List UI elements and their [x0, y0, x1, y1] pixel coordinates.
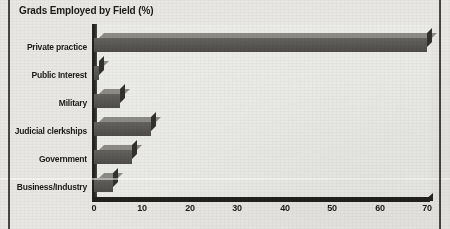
x-tick-label-40: 40 [280, 203, 290, 213]
bar-side-face [427, 28, 432, 47]
bar-front-face [94, 94, 120, 108]
x-tick-label-20: 20 [185, 203, 195, 213]
category-label-business-industry: Business/Industry [0, 182, 87, 192]
x-tick-label-0: 0 [92, 203, 97, 213]
bar-military [94, 89, 120, 103]
scan-band [0, 178, 450, 180]
x-axis [92, 197, 430, 202]
category-label-private-practice: Private practice [0, 42, 87, 52]
left-column-rule [8, 0, 10, 229]
right-column-rule [439, 0, 441, 229]
bar-front-face [94, 122, 151, 136]
bar-judicial-clerkships [94, 117, 151, 131]
x-tick-label-30: 30 [232, 203, 242, 213]
category-label-military: Military [0, 98, 87, 108]
category-label-judicial-clerkships: Judicial clerkships [0, 126, 87, 136]
bar-public-interest [94, 61, 99, 75]
category-label-public-interest: Public Interest [0, 70, 87, 80]
plot-area: Private practice Public Interest Militar… [0, 0, 450, 229]
chart-figure: Grads Employed by Field (%) Private prac… [0, 0, 450, 229]
x-tick-label-50: 50 [327, 203, 337, 213]
bar-government [94, 145, 132, 159]
bar-front-face [94, 178, 113, 192]
bar-business-industry [94, 173, 113, 187]
x-tick-label-10: 10 [137, 203, 147, 213]
x-tick-label-60: 60 [375, 203, 385, 213]
bar-front-face [94, 38, 427, 52]
bar-private-practice [94, 33, 427, 47]
bar-front-face [94, 150, 132, 164]
category-label-government: Government [0, 154, 87, 164]
x-tick-label-70: 70 [422, 203, 432, 213]
